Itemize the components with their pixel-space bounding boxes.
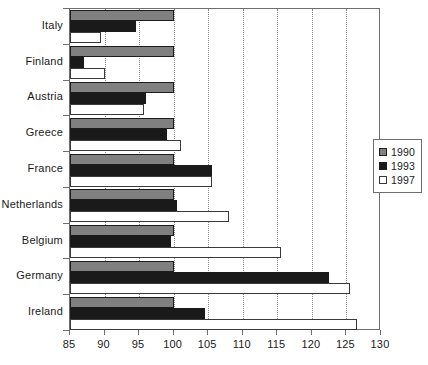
y-axis-label-greece: Greece	[0, 126, 63, 138]
bar-belgium-1993	[70, 236, 171, 247]
bar-group	[70, 82, 379, 115]
legend-item-1997[interactable]: 1997	[379, 173, 417, 187]
bar-france-1990	[70, 154, 174, 165]
legend-label: 1993	[391, 161, 415, 172]
legend-label: 1990	[391, 147, 415, 158]
bar-france-1993	[70, 165, 212, 176]
bar-finland-1990	[70, 46, 174, 57]
x-axis-label: 130	[360, 338, 400, 350]
x-axis-tick	[69, 330, 70, 335]
x-axis-tick	[380, 330, 381, 335]
chart-legend: 199019931997	[373, 139, 422, 193]
x-axis-tick	[311, 330, 312, 335]
bar-group	[70, 297, 379, 330]
legend-label: 1997	[391, 175, 415, 186]
legend-swatch-1997-icon	[379, 176, 387, 184]
bar-greece-1997	[70, 140, 181, 151]
bar-austria-1990	[70, 82, 174, 93]
y-axis-tick	[63, 187, 69, 188]
plot-area	[69, 8, 380, 330]
bar-group	[70, 118, 379, 151]
bar-germany-1997	[70, 283, 350, 294]
x-axis-tick	[276, 330, 277, 335]
bar-ireland-1997	[70, 319, 357, 330]
bar-belgium-1990	[70, 225, 174, 236]
y-axis-label-finland: Finland	[0, 55, 63, 67]
x-axis-tick	[104, 330, 105, 335]
bar-austria-1997	[70, 104, 144, 115]
y-axis-tick	[63, 223, 69, 224]
y-axis-tick	[63, 115, 69, 116]
y-axis-label-germany: Germany	[0, 269, 63, 281]
bar-greece-1990	[70, 118, 174, 129]
bar-group	[70, 225, 379, 258]
y-axis-label-italy: Italy	[0, 19, 63, 31]
x-axis-tick	[173, 330, 174, 335]
y-axis-label-france: France	[0, 162, 63, 174]
y-axis-tick	[63, 330, 69, 331]
bar-finland-1997	[70, 68, 105, 79]
y-axis-tick	[63, 44, 69, 45]
y-axis-label-netherlands: Netherlands	[0, 198, 63, 210]
legend-item-1993[interactable]: 1993	[379, 159, 417, 173]
bar-group	[70, 154, 379, 187]
bar-netherlands-1990	[70, 189, 174, 200]
bar-belgium-1997	[70, 247, 281, 258]
x-axis-tick	[242, 330, 243, 335]
legend-swatch-1993-icon	[379, 162, 387, 170]
y-axis-label-austria: Austria	[0, 90, 63, 102]
bar-italy-1990	[70, 10, 174, 21]
y-axis-label-belgium: Belgium	[0, 234, 63, 246]
bar-ireland-1993	[70, 308, 205, 319]
x-axis-tick	[345, 330, 346, 335]
bar-group	[70, 10, 379, 43]
bar-netherlands-1993	[70, 200, 177, 211]
x-axis-tick	[207, 330, 208, 335]
bar-france-1997	[70, 176, 212, 187]
bar-ireland-1990	[70, 297, 174, 308]
bar-netherlands-1997	[70, 211, 229, 222]
bar-germany-1990	[70, 261, 174, 272]
y-axis-tick	[63, 80, 69, 81]
bar-group	[70, 261, 379, 294]
legend-swatch-1990-icon	[379, 148, 387, 156]
legend-item-1990[interactable]: 1990	[379, 145, 417, 159]
y-axis-tick	[63, 151, 69, 152]
bar-greece-1993	[70, 129, 167, 140]
bar-italy-1993	[70, 21, 136, 32]
y-axis-label-ireland: Ireland	[0, 305, 63, 317]
y-axis-tick	[63, 258, 69, 259]
bar-italy-1997	[70, 32, 101, 43]
bar-group	[70, 189, 379, 222]
bar-germany-1993	[70, 272, 329, 283]
bar-chart: 859095100105110115120125130 ItalyFinland…	[0, 0, 428, 365]
y-axis-tick	[63, 8, 69, 9]
bar-group	[70, 46, 379, 79]
bar-austria-1993	[70, 93, 146, 104]
x-axis-tick	[138, 330, 139, 335]
bar-finland-1993	[70, 57, 84, 68]
y-axis-tick	[63, 294, 69, 295]
